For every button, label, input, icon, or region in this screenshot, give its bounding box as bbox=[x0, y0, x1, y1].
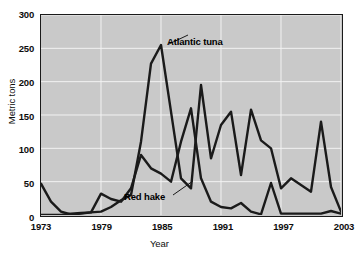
y-axis-title: Metric tons bbox=[6, 67, 17, 137]
series-line-red-hake bbox=[41, 108, 341, 214]
y-tick-label-100: 100 bbox=[0, 144, 34, 155]
y-tick-label-250: 250 bbox=[0, 43, 34, 54]
x-tick-label-1997: 1997 bbox=[263, 221, 303, 232]
x-tick-label-1991: 1991 bbox=[203, 221, 243, 232]
x-tick-label-2003: 2003 bbox=[324, 221, 359, 232]
y-tick-label-300: 300 bbox=[0, 9, 34, 20]
x-tick-label-1985: 1985 bbox=[142, 221, 182, 232]
series-label-red-hake: Red hake bbox=[124, 191, 165, 202]
series-line-atlantic-tuna bbox=[41, 45, 341, 215]
y-tick-label-50: 50 bbox=[0, 178, 34, 189]
x-tick-label-1979: 1979 bbox=[82, 221, 122, 232]
series-label-atlantic-tuna: Atlantic tuna bbox=[167, 36, 223, 47]
series-lines bbox=[41, 45, 341, 215]
x-tick-label-1973: 1973 bbox=[21, 221, 61, 232]
x-axis-title: Year bbox=[150, 238, 169, 249]
line-chart: 300 250 200 150 100 50 0 1973 1979 1985 … bbox=[0, 0, 359, 255]
